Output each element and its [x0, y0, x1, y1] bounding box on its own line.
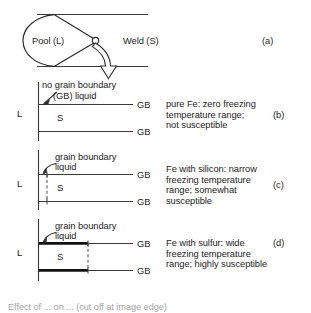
panel-tag-d: (d): [273, 238, 284, 248]
panel-d-gb-top-label: GB: [137, 239, 150, 250]
panel-b-description-line1: pure Fe: zero freezing: [166, 99, 256, 110]
panel-a-graphic: [23, 15, 148, 79]
panel-tag-a: (a): [262, 36, 273, 46]
panel-c-gb-top-label: GB: [137, 170, 150, 181]
panel-b-liquid-label-line1: no grain boundary: [42, 80, 116, 91]
panel-b-liquid-label-line2: (GB) liquid: [53, 91, 96, 102]
panel-d-center-phase-label: S: [57, 251, 63, 262]
panel-c-liquid-label-line1: grain boundary: [55, 152, 116, 163]
panel-b-description-line3: not susceptible: [166, 120, 227, 131]
panel-c-liquid-label-line2: liquid: [55, 162, 76, 173]
panel-tag-b: (b): [273, 110, 284, 120]
panel-d-liquid-label-line1: grain boundary: [55, 221, 116, 232]
panel-b-left-phase-label: L: [17, 108, 22, 119]
panel-tag-c: (c): [273, 180, 284, 190]
figure-caption: Effect of ... on ... (cut off at image e…: [8, 302, 167, 313]
panel-c-description-line2: freezing temperature: [166, 175, 251, 186]
panel-b-gb-top-label: GB: [137, 100, 150, 111]
panel-c-left-phase-label: L: [17, 178, 22, 189]
panel-c-gb-bottom-label: GB: [137, 197, 150, 208]
panel-d-left-phase-label: L: [17, 247, 22, 258]
panel-c-center-phase-label: S: [57, 182, 63, 193]
panel-c-description-line4: susceptible: [166, 196, 212, 207]
panel-d-description-line1: Fe with sulfur: wide: [166, 238, 245, 249]
panel-c-description-line3: range; somewhat: [166, 185, 237, 196]
panel-c-description-line1: Fe with silicon: narrow: [166, 164, 257, 175]
weld-label: Weld (S): [123, 36, 159, 47]
panel-d-description-line3: range; highly susceptible: [166, 259, 267, 270]
panel-b-callout-arrowhead: [43, 100, 50, 105]
panel-d-gb-bottom-label: GB: [137, 266, 150, 277]
zoom-callout-arrow: [92, 43, 116, 79]
panel-b-gb-bottom-label: GB: [137, 127, 150, 138]
panel-c-callout-arrowhead: [43, 168, 47, 175]
panel-b-description-line2: temperature range;: [166, 110, 244, 121]
panel-d-description-line2: freezing temperature: [166, 249, 251, 260]
panel-b-center-phase-label: S: [57, 112, 63, 123]
panel-d-liquid-label-line2: liquid: [55, 231, 76, 242]
pool-label: Pool (L): [32, 36, 64, 47]
